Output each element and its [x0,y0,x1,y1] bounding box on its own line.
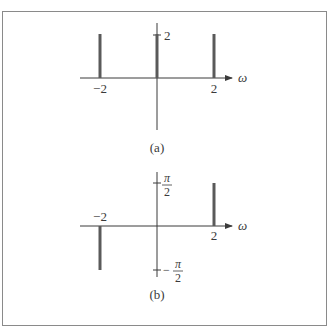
y-tick-label-b-two: 2 [164,185,170,199]
x-tick-label-b-pos: 2 [211,228,218,243]
y-tick-label-b-pi: π [164,171,171,185]
y-tick-label-b-pi-neg: π [175,257,182,271]
panel-a: 2 −2 2 ω (a) [80,23,247,155]
x-tick-label-a-neg: −2 [93,81,107,96]
panel-b: π 2 − π 2 −2 2 ω (b) [80,171,247,302]
y-tick-label-a: 2 [164,28,171,43]
y-tick-label-b-minus: − [163,263,170,277]
omega-label-b: ω [238,218,247,233]
y-tick-label-b-two-neg: 2 [175,271,181,285]
panel-label-a: (a) [150,140,164,155]
x-tick-label-a-pos: 2 [211,81,218,96]
omega-label-a: ω [238,70,247,85]
x-tick-label-b-neg: −2 [93,209,107,224]
panel-label-b: (b) [149,287,164,302]
